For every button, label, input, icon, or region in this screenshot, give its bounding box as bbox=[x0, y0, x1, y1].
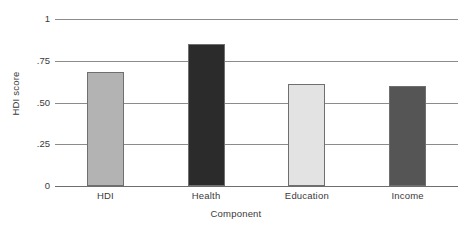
plot-area: 1.75.50.250 HDIHealthEducationIncome bbox=[0, 0, 472, 200]
x-axis-title: Component bbox=[0, 208, 472, 219]
gridline bbox=[55, 61, 458, 62]
bar-education bbox=[288, 84, 325, 186]
x-tick-label: Income bbox=[358, 190, 458, 201]
y-tick-label: .75 bbox=[22, 56, 50, 66]
y-tick-label: 0 bbox=[22, 181, 50, 191]
x-tick-label: HDI bbox=[55, 190, 155, 201]
y-tick-label: 1 bbox=[22, 14, 50, 24]
gridline bbox=[55, 19, 458, 20]
bar-health bbox=[188, 44, 225, 186]
hdi-component-bar-chart: HDI score 1.75.50.250 HDIHealthEducation… bbox=[0, 0, 472, 234]
x-axis-baseline bbox=[55, 186, 458, 187]
bar-hdi bbox=[87, 72, 124, 186]
x-tick-label: Education bbox=[257, 190, 357, 201]
y-tick-label: .50 bbox=[22, 98, 50, 108]
y-tick-label: .25 bbox=[22, 139, 50, 149]
x-tick-label: Health bbox=[156, 190, 256, 201]
bar-income bbox=[389, 86, 426, 186]
